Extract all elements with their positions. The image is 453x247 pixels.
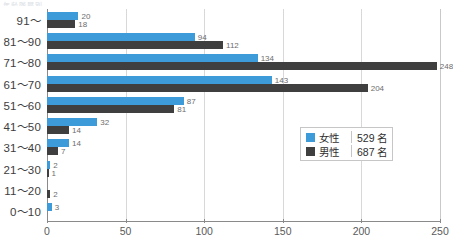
bar-男性-61～70[interactable] xyxy=(47,84,368,92)
y-label-81～90: 81～90 xyxy=(3,33,41,49)
bar-男性-71～80[interactable] xyxy=(47,62,437,70)
bar-女性-91～[interactable] xyxy=(47,12,78,20)
age-gender-bar-chart: 年齢階層別 91～81～9071～8061～7051～6041～5031～402… xyxy=(0,0,453,247)
bar-value-label: 81 xyxy=(174,104,186,113)
x-tick-250 xyxy=(440,219,441,223)
bar-group: 134248 xyxy=(47,52,440,73)
legend-item-男性[interactable]: 男性687 名 xyxy=(306,145,387,157)
plot-area: 201894112134248143204878132141472123 xyxy=(47,9,440,222)
y-label-71～80: 71～80 xyxy=(3,54,41,70)
bar-男性-81～90[interactable] xyxy=(47,41,223,49)
legend-divider xyxy=(351,131,352,143)
bar-group: 143204 xyxy=(47,73,440,94)
bar-slot: 2 xyxy=(47,161,440,169)
legend-series-name: 女性 xyxy=(319,130,349,145)
bar-value-label: 14 xyxy=(69,126,81,135)
legend-divider xyxy=(351,145,352,157)
bar-男性-41～50[interactable] xyxy=(47,126,69,134)
y-label-31～40: 31～40 xyxy=(3,139,41,155)
bar-value-label: 112 xyxy=(223,40,239,49)
bar-slot: 134 xyxy=(47,54,440,62)
y-label-51～60: 51～60 xyxy=(3,97,41,113)
bar-slot xyxy=(47,211,440,219)
y-label-11～20: 11～20 xyxy=(4,182,41,198)
bar-slot: 248 xyxy=(47,62,440,70)
bar-女性-71～80[interactable] xyxy=(47,54,258,62)
bar-value-label: 2 xyxy=(50,190,57,199)
bar-group: 2 xyxy=(47,179,440,200)
chart-legend: 女性529 名男性687 名 xyxy=(300,127,393,161)
y-label-0～10: 0～10 xyxy=(10,203,41,219)
bar-slot: 94 xyxy=(47,33,440,41)
bar-value-label: 7 xyxy=(58,147,65,156)
bar-男性-91～[interactable] xyxy=(47,20,75,28)
bar-slot: 112 xyxy=(47,41,440,49)
legend-series-count: 687 名 xyxy=(357,144,387,159)
bar-slot: 2 xyxy=(47,190,440,198)
bar-value-label: 18 xyxy=(75,19,87,28)
legend-item-女性[interactable]: 女性529 名 xyxy=(306,131,387,143)
bar-group: 94112 xyxy=(47,30,440,51)
x-label-150: 150 xyxy=(274,225,292,237)
x-label-100: 100 xyxy=(195,225,213,237)
bar-slot: 204 xyxy=(47,84,440,92)
bar-value-label: 204 xyxy=(368,83,384,92)
cropped-title-remnant: 年齢階層別 xyxy=(3,0,43,6)
x-label-50: 50 xyxy=(120,225,132,237)
bar-女性-51～60[interactable] xyxy=(47,97,184,105)
bar-slot: 32 xyxy=(47,118,440,126)
x-label-250: 250 xyxy=(431,225,449,237)
y-label-21～30: 21～30 xyxy=(3,161,41,177)
bar-slot: 81 xyxy=(47,105,440,113)
bar-group: 3 xyxy=(47,201,440,222)
bar-slot: 1 xyxy=(47,169,440,177)
bar-group: 21 xyxy=(47,158,440,179)
bar-男性-31～40[interactable] xyxy=(47,147,58,155)
bar-女性-81～90[interactable] xyxy=(47,33,195,41)
y-label-91～: 91～ xyxy=(17,12,41,28)
x-axis-tick-labels: 050100150200250 xyxy=(47,225,440,241)
legend-swatch-icon xyxy=(306,147,315,156)
bar-group: 8781 xyxy=(47,94,440,115)
gridline-250 xyxy=(440,9,441,222)
x-label-200: 200 xyxy=(353,225,371,237)
bar-女性-61～70[interactable] xyxy=(47,76,272,84)
x-label-0: 0 xyxy=(44,225,50,237)
bar-group: 2018 xyxy=(47,9,440,30)
y-axis-category-labels: 91～81～9071～8061～7051～6041～5031～4021～3011… xyxy=(0,9,44,222)
legend-series-name: 男性 xyxy=(319,144,349,159)
legend-swatch-icon xyxy=(306,133,315,142)
bar-value-label: 1 xyxy=(49,168,56,177)
bar-slot: 18 xyxy=(47,20,440,28)
bar-slot: 3 xyxy=(47,203,440,211)
bar-slot: 20 xyxy=(47,12,440,20)
bar-男性-51～60[interactable] xyxy=(47,105,174,113)
y-label-61～70: 61～70 xyxy=(3,76,41,92)
bar-slot xyxy=(47,182,440,190)
legend-series-count: 529 名 xyxy=(357,130,387,145)
bar-value-label: 248 xyxy=(437,62,453,71)
bar-slot: 87 xyxy=(47,97,440,105)
y-label-41～50: 41～50 xyxy=(3,118,41,134)
